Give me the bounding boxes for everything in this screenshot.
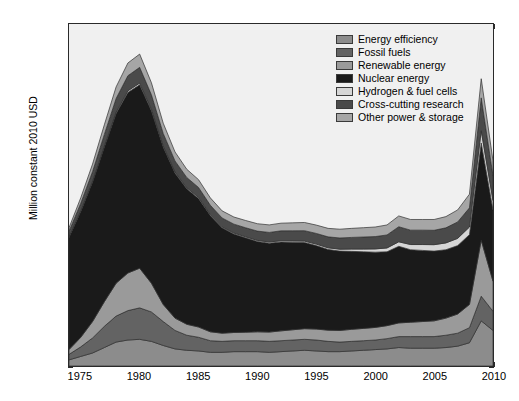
legend-item: Cross-cutting research [336,98,464,111]
legend-item-label: Other power & storage [358,112,464,123]
y-tick-mark [68,367,73,368]
x-tick-label: 1990 [227,371,287,382]
x-tick-label: 2000 [346,371,406,382]
legend-item: Hydrogen & fuel cells [336,85,464,98]
legend-swatch-icon [336,35,353,44]
legend-item-label: Fossil fuels [358,47,411,58]
legend-item-label: Hydrogen & fuel cells [358,86,457,97]
legend-item-label: Renewable energy [358,60,446,71]
legend-swatch-icon [336,87,353,96]
legend-swatch-icon [336,74,353,83]
legend-item-label: Energy efficiency [358,34,438,45]
legend-swatch-icon [336,48,353,57]
x-tick-label: 1985 [168,371,228,382]
legend-item-label: Cross-cutting research [358,99,464,110]
legend-item: Other power & storage [336,111,464,124]
chart-figure: Million constant 2010 USD 05,00010,00015… [0,0,519,401]
y-axis-title: Million constant 2010 USD [27,43,39,273]
x-tick-label: 1980 [109,371,169,382]
legend-item: Energy efficiency [336,33,464,46]
legend-item-label: Nuclear energy [358,73,429,84]
x-tick-label: 1975 [50,371,110,382]
x-tick-mark [494,24,495,29]
legend-swatch-icon [336,61,353,70]
legend-item: Renewable energy [336,59,464,72]
legend-swatch-icon [336,113,353,122]
x-tick-label: 2005 [405,371,465,382]
x-tick-mark [494,362,495,367]
legend-swatch-icon [336,100,353,109]
x-tick-label: 2010 [464,371,519,382]
legend-item: Fossil fuels [336,46,464,59]
y-tick-mark [489,367,494,368]
legend-item: Nuclear energy [336,72,464,85]
x-tick-label: 1995 [287,371,347,382]
chart-legend: Energy efficiencyFossil fuelsRenewable e… [334,31,467,126]
